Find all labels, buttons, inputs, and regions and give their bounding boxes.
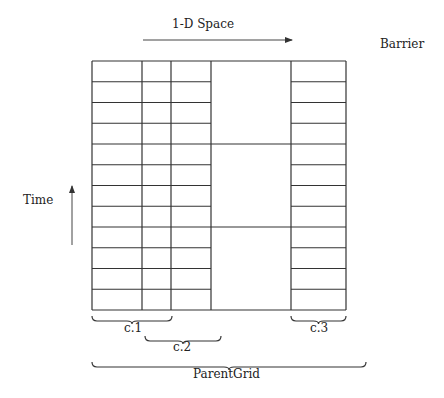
grid-lines: [92, 61, 346, 310]
c1-label: c.1: [124, 321, 142, 335]
parent-grid-label: ParentGrid: [193, 367, 260, 381]
c3-label: c.3: [310, 321, 328, 335]
time-axis-label: Time: [23, 193, 53, 207]
c2-label: c.2: [173, 340, 191, 354]
grid-diagram: [0, 0, 444, 398]
barrier-label: Barrier: [380, 37, 424, 51]
space-axis-label: 1-D Space: [172, 17, 234, 31]
